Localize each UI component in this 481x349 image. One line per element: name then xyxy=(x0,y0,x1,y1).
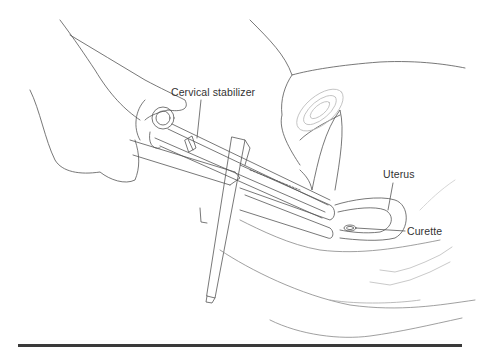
hand-drawing xyxy=(30,20,186,182)
label-uterus: Uterus xyxy=(383,168,415,180)
anatomy-drawing xyxy=(220,20,475,337)
leader-cervical-stabilizer xyxy=(197,100,201,138)
label-curette: Curette xyxy=(407,225,442,237)
leader-lines xyxy=(197,100,405,231)
label-cervical-stabilizer: Cervical stabilizer xyxy=(171,86,255,98)
horizontal-rule xyxy=(18,344,462,347)
leader-uterus xyxy=(388,183,393,210)
leader-curette xyxy=(356,228,405,231)
